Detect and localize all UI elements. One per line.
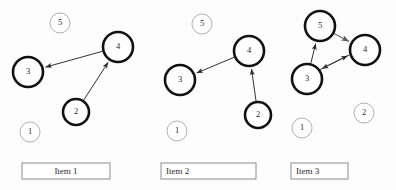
node-label: 2 — [256, 109, 260, 119]
node-5[interactable]: 5 — [305, 11, 335, 41]
diagram-stage: 543215432154321 Item 1Item 2Item 3 — [0, 0, 396, 190]
node-label: 2 — [362, 107, 366, 117]
nodes-layer: 543215432154321 — [13, 11, 380, 142]
caption-label: Item 3 — [296, 166, 320, 176]
node-4[interactable]: 4 — [234, 36, 264, 66]
edge-n3-to-n5 — [311, 44, 316, 64]
node-2[interactable]: 2 — [245, 102, 271, 128]
edge-n5-to-n4 — [334, 34, 349, 42]
node-3[interactable]: 3 — [13, 57, 43, 87]
caption-box-3[interactable]: Item 3 — [291, 163, 348, 179]
edge-n2-to-n4 — [84, 62, 109, 100]
node-5[interactable]: 5 — [50, 13, 70, 33]
edge-n2-to-n4 — [252, 69, 257, 101]
node-label: 1 — [175, 125, 179, 135]
node-label: 5 — [200, 18, 204, 28]
caption-box-1[interactable]: Item 1 — [22, 163, 110, 179]
node-3[interactable]: 3 — [165, 65, 195, 95]
edge-n4-to-n3 — [197, 57, 234, 73]
node-4[interactable]: 4 — [350, 35, 380, 65]
node-4[interactable]: 4 — [103, 32, 133, 62]
node-2[interactable]: 2 — [63, 99, 89, 125]
node-label: 1 — [28, 126, 32, 136]
node-label: 1 — [300, 122, 304, 132]
edge-n4-to-n3 — [46, 51, 103, 67]
caption-label: Item 1 — [54, 166, 77, 176]
node-5[interactable]: 5 — [192, 14, 212, 34]
caption-box-2[interactable]: Item 2 — [161, 163, 256, 179]
node-label: 3 — [178, 74, 182, 84]
node-1[interactable]: 1 — [20, 122, 40, 142]
node-1[interactable]: 1 — [167, 121, 187, 141]
node-label: 2 — [74, 106, 78, 116]
edge-n3-to-n4 — [320, 56, 347, 70]
caption-label: Item 2 — [166, 166, 189, 176]
node-label: 3 — [305, 73, 309, 83]
node-1[interactable]: 1 — [292, 118, 312, 138]
node-2[interactable]: 2 — [354, 103, 374, 123]
node-3[interactable]: 3 — [292, 64, 322, 94]
node-label: 3 — [26, 66, 30, 76]
node-label: 5 — [58, 17, 62, 27]
node-label: 5 — [318, 20, 322, 30]
graph-canvas: 543215432154321 Item 1Item 2Item 3 — [0, 0, 396, 190]
captions-layer: Item 1Item 2Item 3 — [22, 163, 348, 179]
